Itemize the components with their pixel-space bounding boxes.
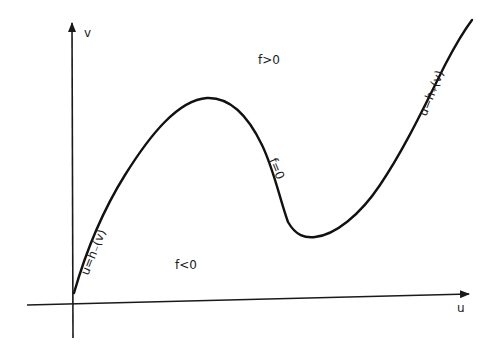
v-axis — [72, 23, 73, 338]
u-axis-label: u — [457, 301, 465, 315]
right-branch-label: u=h₊(v) — [416, 68, 447, 118]
v-axis-label: v — [84, 26, 91, 40]
region-f-positive-label: f>0 — [258, 53, 280, 67]
phase-plane-diagram: v u f>0 f<0 f=0 u=h₋(v) u=h₊(v) — [0, 0, 493, 353]
left-branch-label: u=h₋(v) — [78, 227, 109, 277]
region-f-negative-label: f<0 — [175, 258, 197, 272]
curve-f-zero-label: f=0 — [266, 156, 287, 182]
u-axis — [27, 294, 469, 305]
